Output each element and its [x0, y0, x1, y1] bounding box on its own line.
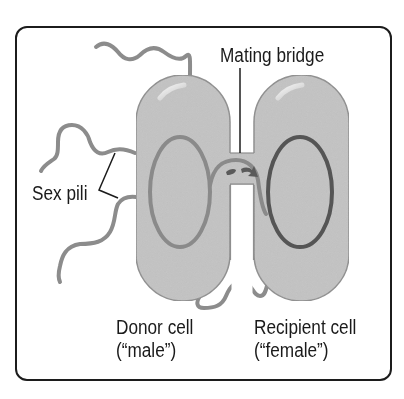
sex-pili-label: Sex pili [32, 182, 87, 204]
donor-cell-sublabel: (“male”) [116, 339, 176, 361]
mating-bridge-label: Mating bridge [220, 44, 324, 66]
conjugation-diagram: Mating bridge Sex pili Donor cell (“male… [0, 0, 404, 399]
donor-cell-label: Donor cell [116, 316, 193, 338]
recipient-cell-label: Recipient cell [254, 316, 356, 338]
recipient-cell-sublabel: (“female”) [254, 339, 329, 361]
